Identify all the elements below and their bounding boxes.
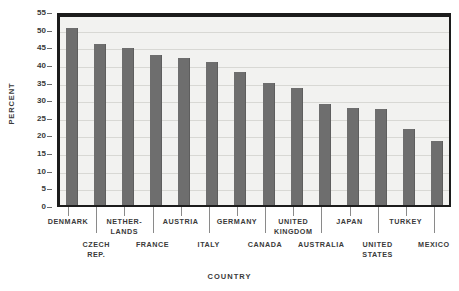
x-axis-tick-label: Germany	[217, 217, 258, 227]
x-axis-tick-label: Mexico	[418, 240, 450, 250]
x-axis-tick-label-line: Germany	[217, 217, 258, 226]
x-axis-tick-label: France	[136, 240, 169, 250]
x-axis-tick-label-line: Kingdom	[274, 227, 313, 237]
x-axis-tick-label-line: Australia	[298, 240, 344, 249]
x-axis-tick-label-line: States	[362, 250, 393, 260]
x-axis-tick-label: CzechRep.	[82, 240, 110, 260]
x-axis-tick-label-line: Italy	[198, 240, 220, 249]
x-axis-tick-label-line: Denmark	[48, 217, 89, 226]
x-axis-tick-label: Canada	[248, 240, 282, 250]
x-axis-tick-label: Nether-lands	[106, 217, 142, 237]
x-axis-tick-label-line: Mexico	[418, 240, 450, 249]
x-axis-tick-label-line: France	[136, 240, 169, 249]
x-axis-tick-label: Australia	[298, 240, 344, 250]
x-axis-tick-label-line: Austria	[163, 217, 199, 226]
x-axis-tick-label-line: United	[363, 240, 393, 249]
x-axis-title: Country	[0, 272, 459, 281]
x-axis-tick-label-line: United	[278, 217, 308, 226]
x-axis-tick-label-line: Japan	[336, 217, 363, 226]
x-axis-tick-label: Denmark	[48, 217, 89, 227]
bar-chart-figure: Percent 0510152025303540455055 DenmarkCz…	[0, 0, 459, 291]
x-axis-tick-label-line: Czech	[82, 240, 110, 249]
x-axis-tick-label: Italy	[198, 240, 220, 250]
x-axis-tick-label: Turkey	[389, 217, 422, 227]
x-axis-tick-label-line: Nether-	[106, 217, 142, 226]
x-axis-tick-label-line: lands	[106, 227, 142, 237]
x-axis-tick-label-line: Canada	[248, 240, 282, 249]
x-axis-tick-label: Austria	[163, 217, 199, 227]
x-axis-tick-label-line: Turkey	[389, 217, 422, 226]
x-axis-tick-label: UnitedKingdom	[274, 217, 313, 237]
x-axis-tick-label: Japan	[336, 217, 363, 227]
x-axis-tick-label-line: Rep.	[82, 250, 110, 260]
x-axis-tick-labels: DenmarkCzechRep.Nether-landsFranceAustri…	[0, 0, 459, 291]
x-axis-tick-label: UnitedStates	[362, 240, 393, 260]
